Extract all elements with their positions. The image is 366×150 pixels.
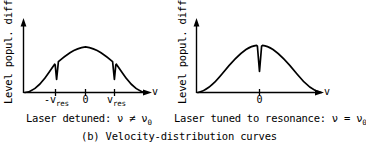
y-axis bbox=[194, 18, 200, 93]
tick-label-neg-vres: -vres bbox=[44, 95, 69, 105]
panel-container: Level popul. diff. bbox=[0, 0, 358, 132]
x-axis-end-label: v bbox=[152, 87, 158, 97]
panel-caption-detuned: Laser detuned: ν ≠ ν0 bbox=[26, 113, 152, 124]
panel-caption-resonance: Laser tuned to resonance: ν = ν0 bbox=[174, 113, 366, 124]
doppler-curve-two-dips bbox=[25, 47, 146, 93]
figure-caption: (b) Velocity-distribution curves bbox=[0, 131, 358, 142]
tick-label-zero: 0 bbox=[257, 95, 263, 105]
plot-area-resonance bbox=[174, 0, 358, 100]
y-axis bbox=[21, 18, 27, 93]
tick-label-pos-vres: vres bbox=[107, 95, 126, 105]
panel-detuned: Level popul. diff. bbox=[0, 0, 180, 132]
panel-resonance: Level popul. diff. 0 bbox=[174, 0, 358, 132]
doppler-curve-central-dip bbox=[198, 45, 321, 92]
plot-area-detuned bbox=[0, 0, 180, 100]
tick-label-zero: 0 bbox=[83, 95, 89, 105]
x-axis-end-label: v bbox=[324, 87, 330, 97]
